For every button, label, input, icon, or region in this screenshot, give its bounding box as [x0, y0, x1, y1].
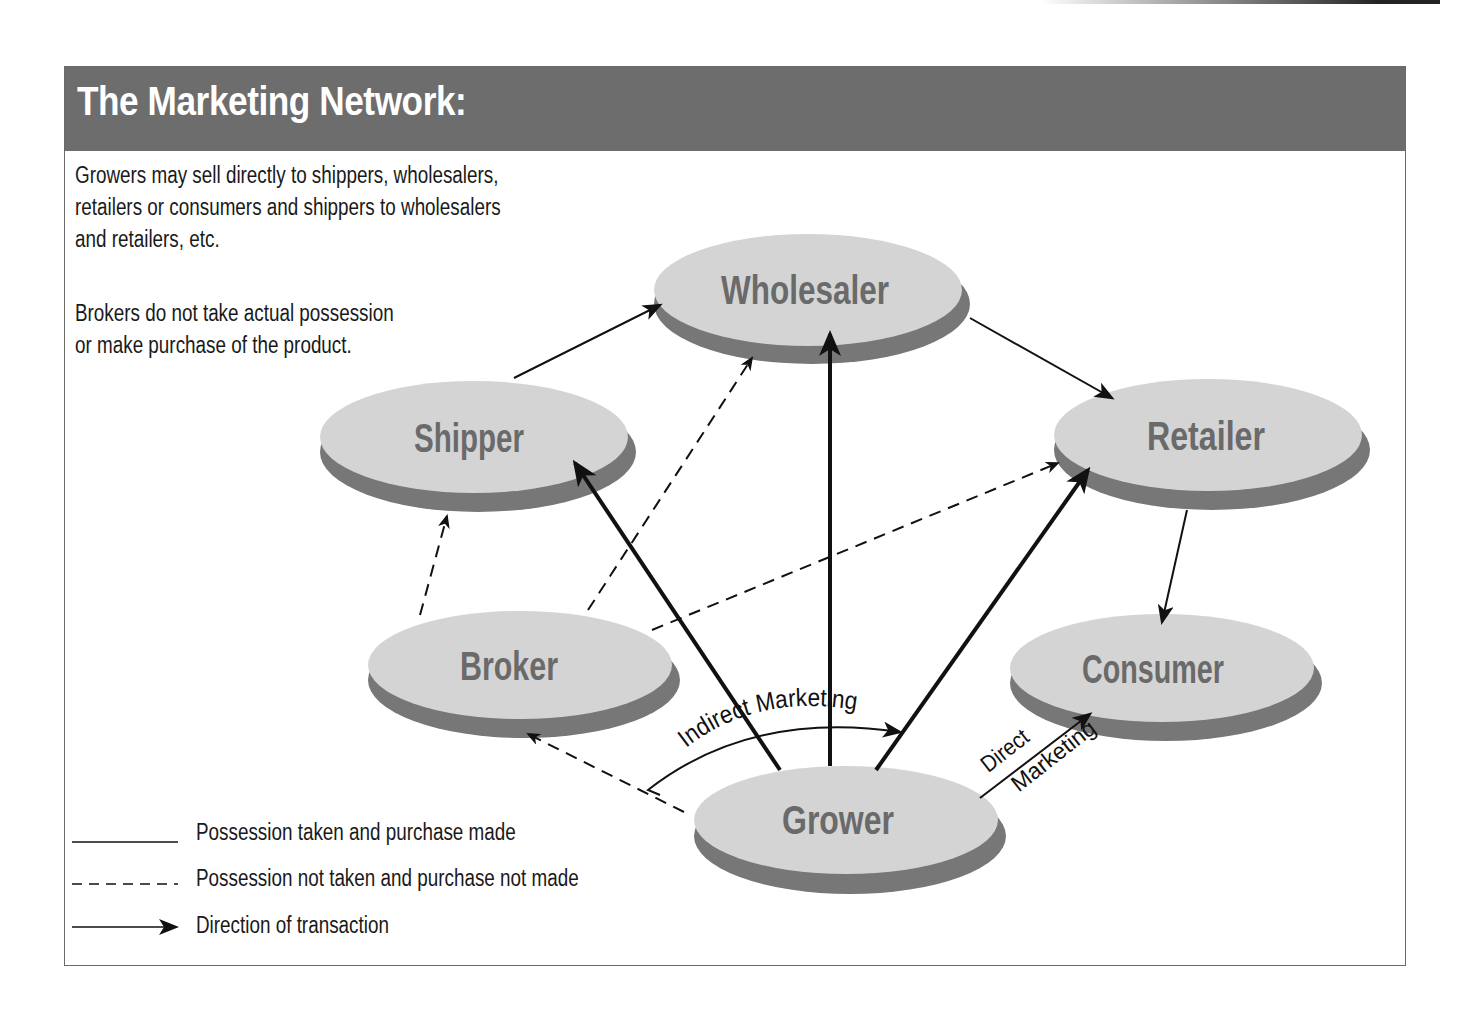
node-label-wholesaler: Wholesaler	[721, 268, 889, 312]
node-label-broker: Broker	[460, 644, 558, 688]
node-retailer: Retailer	[1054, 379, 1370, 510]
node-label-shipper: Shipper	[414, 416, 524, 460]
legend-label-arrow: Direction of transaction	[196, 912, 389, 939]
network-diagram: Wholesaler Shipper Retailer Broker Consu…	[0, 0, 1477, 1015]
node-shipper: Shipper	[320, 381, 636, 512]
edge-broker-wholesaler	[588, 358, 752, 610]
edge-shipper-wholesaler	[514, 305, 660, 378]
edge-grower-broker	[528, 734, 684, 812]
node-wholesaler: Wholesaler	[654, 234, 970, 364]
node-label-consumer: Consumer	[1082, 647, 1224, 691]
edge-broker-retailer	[652, 463, 1058, 630]
edge-grower-retailer	[876, 470, 1088, 770]
legend	[72, 842, 178, 927]
node-label-retailer: Retailer	[1147, 414, 1265, 458]
edge-broker-shipper	[420, 516, 447, 615]
edge-wholesaler-retailer	[970, 318, 1112, 398]
node-grower: Grower	[694, 766, 1006, 894]
legend-label-dashed: Possession not taken and purchase not ma…	[196, 865, 579, 892]
node-broker: Broker	[368, 611, 680, 738]
node-label-grower: Grower	[782, 798, 894, 842]
edge-retailer-consumer	[1162, 510, 1187, 622]
node-consumer: Consumer	[1010, 614, 1322, 741]
legend-label-solid: Possession taken and purchase made	[196, 819, 516, 846]
